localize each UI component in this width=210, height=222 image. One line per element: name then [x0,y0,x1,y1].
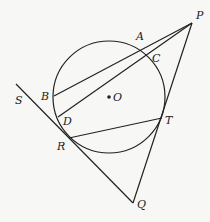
label-C: C [152,52,161,65]
center-point-O [107,95,111,99]
line-segments [16,23,192,203]
chord-RT [69,118,162,138]
point-labels: PACBDORTQS [15,9,204,211]
secant-PCD [58,23,192,117]
geometry-diagram: PACBDORTQS [0,0,210,222]
label-S: S [15,94,23,107]
label-R: R [56,140,65,153]
label-P: P [195,9,204,22]
label-O: O [113,91,122,104]
label-D: D [62,115,72,128]
diagram-canvas: PACBDORTQS [0,0,210,222]
label-T: T [165,114,174,127]
label-Q: Q [137,198,146,211]
label-B: B [40,90,49,103]
label-A: A [135,30,144,43]
